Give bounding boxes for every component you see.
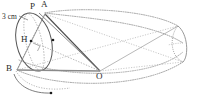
marker-h — [30, 40, 33, 43]
point-label-o: O — [96, 72, 103, 81]
edge-o-to-right-top — [100, 26, 178, 71]
right-angle-square — [33, 43, 40, 51]
axis-o-to-h — [31, 41, 100, 71]
right-cap-axis-hint — [168, 43, 183, 45]
sweep-arc-solid — [14, 74, 52, 93]
right-end-cap — [168, 26, 187, 62]
right-angle-mark-at-h — [33, 43, 40, 51]
right-cap-outer-edge — [178, 26, 187, 62]
point-label-a: A — [41, 0, 48, 9]
dimension-label-3cm: 3 cm — [2, 13, 17, 21]
construction-lines — [17, 14, 183, 71]
edge-o-to-p — [39, 13, 100, 71]
geometry-canvas — [0, 0, 200, 100]
geometry-figure: 3 cm P A H B O — [0, 0, 200, 100]
cone-slant-edges — [17, 13, 100, 71]
edge-o-to-b-base-line — [17, 70, 100, 71]
marker-interior-dot — [52, 39, 55, 42]
sweep-arc — [14, 71, 70, 94]
edge-o-to-a — [45, 14, 100, 71]
top-back-arc — [45, 10, 178, 26]
point-label-h: H — [21, 35, 28, 44]
point-label-p: P — [30, 2, 35, 11]
sweep-arc-endpoint-marker — [50, 92, 53, 95]
point-label-b: B — [6, 64, 12, 73]
diagonal-b-to-right-top — [17, 26, 178, 70]
